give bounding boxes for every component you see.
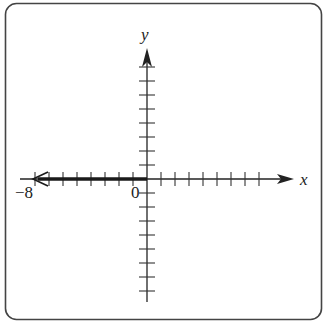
frame — [6, 4, 322, 320]
origin-label: 0 — [131, 183, 140, 202]
axes — [20, 62, 283, 302]
y-axis-label: y — [139, 25, 149, 44]
x-axis-label: x — [299, 170, 308, 189]
graph: x y 0 −8 — [0, 0, 324, 325]
minus-eight-label: −8 — [15, 183, 33, 202]
